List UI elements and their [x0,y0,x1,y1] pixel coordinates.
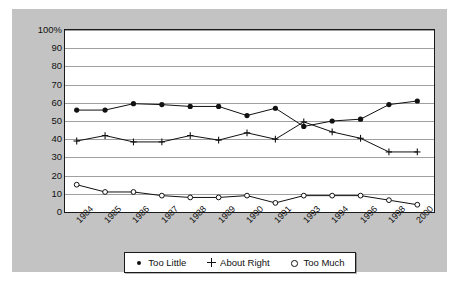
y-axis-tick-label: 40 [24,134,62,144]
data-point [159,139,165,146]
data-point [273,201,278,206]
y-axis-tick-label: 0 [24,207,62,217]
data-point [301,119,307,126]
data-point [245,193,250,198]
chart-panel: 100%9080706050403020100 1984198519861987… [12,9,447,272]
data-point [73,138,79,145]
data-point [130,139,136,146]
data-point [272,136,278,143]
plus-icon [207,258,216,267]
legend-item-too-much: Too Much [290,257,344,268]
data-point [273,106,278,111]
data-point [415,98,420,103]
data-point [244,113,249,118]
data-point [244,129,250,136]
data-point [358,193,363,198]
filled-circle-icon [135,258,144,267]
data-point [386,102,391,107]
y-axis-tick-labels: 100%9080706050403020100 [24,29,62,213]
data-point [216,195,221,200]
chart-legend: Too LittleAbout RightToo Much [124,252,356,273]
chart-figure: 100%9080706050403020100 1984198519861987… [0,0,459,281]
legend-item-too-little: Too Little [135,257,186,268]
series-line [77,122,418,152]
y-axis-tick-label: 90 [24,43,62,53]
plot-area [64,29,435,213]
y-axis-tick-label: 50 [24,116,62,126]
data-point [216,104,221,109]
data-point [329,129,335,136]
data-point [330,118,335,123]
y-axis-tick-label: 30 [24,153,62,163]
data-point [159,102,164,107]
y-axis-tick-label: 60 [24,98,62,108]
data-point [415,202,420,207]
y-axis-tick-label: 20 [24,171,62,181]
data-point [215,137,221,144]
x-axis-tick-labels: 1984198519861987198819891990199119931994… [64,215,435,249]
y-axis-tick-label: 100% [24,25,62,35]
data-point [131,101,136,106]
data-point [103,190,108,195]
data-point [188,195,193,200]
legend-item-label: Too Little [148,257,186,268]
data-point [414,149,420,156]
data-point [188,104,193,109]
data-point [131,190,136,195]
data-point [102,107,107,112]
data-series-layer [65,30,434,212]
data-point [386,149,392,156]
y-axis-tick-label: 70 [24,80,62,90]
data-point [330,193,335,198]
data-point [102,132,108,139]
data-point [74,107,79,112]
y-axis-tick-label: 10 [24,189,62,199]
data-point [387,198,392,203]
legend-item-label: About Right [220,257,270,268]
data-point [74,182,79,187]
data-point [357,135,363,142]
data-point [358,117,363,122]
open-circle-icon [290,258,299,267]
legend-item-label: Too Much [303,257,344,268]
legend-item-about-right: About Right [207,257,270,268]
data-point [301,193,306,198]
data-point [187,132,193,139]
data-point [159,193,164,198]
y-axis-tick-label: 80 [24,62,62,72]
